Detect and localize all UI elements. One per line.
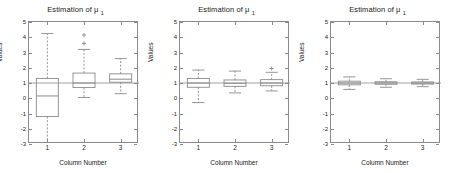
- panel-title: Estimation of μ 1: [0, 5, 151, 16]
- y-tick-label: -2: [323, 126, 328, 132]
- y-tick-label: 2: [325, 65, 328, 71]
- panel-title-subscript: 1: [252, 10, 255, 16]
- y-tick-mark: [29, 144, 32, 145]
- x-tick-label: 1: [46, 144, 50, 151]
- y-tick-mark: [331, 144, 334, 145]
- y-tick-label: 5: [23, 19, 26, 25]
- x-axis-label: Column Number: [330, 159, 440, 166]
- x-tick-label: 2: [384, 144, 388, 151]
- y-tick-label: -2: [172, 126, 177, 132]
- y-tick-label: -1: [21, 111, 26, 117]
- y-tick-label: 0: [325, 95, 328, 101]
- y-tick-label: 3: [325, 50, 328, 56]
- box-rect: [73, 73, 95, 87]
- axes-frame: -3-2-1012345123: [330, 21, 440, 143]
- box-rect: [36, 78, 58, 116]
- y-axis-label: Values: [0, 43, 3, 62]
- y-tick-label: -2: [21, 126, 26, 132]
- x-axis-label: Column Number: [28, 159, 138, 166]
- y-tick-label: 0: [23, 95, 26, 101]
- panel-title-subscript: 1: [403, 10, 406, 16]
- boxplot-figure: Estimation of μ 1-3-2-1012345123ValuesCo…: [0, 0, 453, 173]
- y-tick-label: 1: [325, 80, 328, 86]
- y-tick-mark: [134, 144, 137, 145]
- y-tick-mark: [436, 144, 439, 145]
- y-tick-label: 1: [174, 80, 177, 86]
- y-axis-label: Values: [298, 43, 305, 62]
- panel-title-text: Estimation of μ: [349, 5, 400, 14]
- y-tick-label: -3: [172, 141, 177, 147]
- x-tick-label: 2: [233, 144, 237, 151]
- y-tick-label: 5: [325, 19, 328, 25]
- box-layer: [29, 22, 139, 144]
- y-tick-label: -1: [323, 111, 328, 117]
- panel-title-text: Estimation of μ: [198, 5, 249, 14]
- y-tick-label: 4: [23, 34, 26, 40]
- box-layer: [180, 22, 290, 144]
- y-tick-label: -3: [323, 141, 328, 147]
- y-tick-label: 4: [174, 34, 177, 40]
- x-tick-label: 1: [197, 144, 201, 151]
- x-tick-label: 3: [421, 144, 425, 151]
- x-tick-label: 3: [119, 144, 123, 151]
- axes-frame: -3-2-1012345123: [179, 21, 289, 143]
- y-tick-label: -1: [172, 111, 177, 117]
- box-rect: [110, 74, 132, 82]
- panel-2: Estimation of μ 1-3-2-1012345123ValuesCo…: [151, 0, 302, 173]
- y-tick-label: 2: [23, 65, 26, 71]
- x-axis-label: Column Number: [179, 159, 289, 166]
- panel-title-text: Estimation of μ: [47, 5, 98, 14]
- box-layer: [331, 22, 441, 144]
- y-tick-mark: [180, 144, 183, 145]
- x-tick-label: 2: [82, 144, 86, 151]
- y-tick-label: 3: [174, 50, 177, 56]
- panel-title: Estimation of μ 1: [151, 5, 302, 16]
- y-axis-label: Values: [147, 43, 154, 62]
- y-tick-mark: [285, 144, 288, 145]
- y-tick-label: 3: [23, 50, 26, 56]
- x-tick-label: 3: [270, 144, 274, 151]
- panel-title-subscript: 1: [101, 10, 104, 16]
- panel-3: Estimation of μ 1-3-2-1012345123ValuesCo…: [302, 0, 453, 173]
- x-tick-label: 1: [348, 144, 352, 151]
- y-tick-label: 4: [325, 34, 328, 40]
- axes-frame: -3-2-1012345123: [28, 21, 138, 143]
- panel-title: Estimation of μ 1: [302, 5, 453, 16]
- y-tick-label: 1: [23, 80, 26, 86]
- y-tick-label: 0: [174, 95, 177, 101]
- panel-1: Estimation of μ 1-3-2-1012345123ValuesCo…: [0, 0, 151, 173]
- y-tick-label: 5: [174, 19, 177, 25]
- y-tick-label: -3: [21, 141, 26, 147]
- y-tick-label: 2: [174, 65, 177, 71]
